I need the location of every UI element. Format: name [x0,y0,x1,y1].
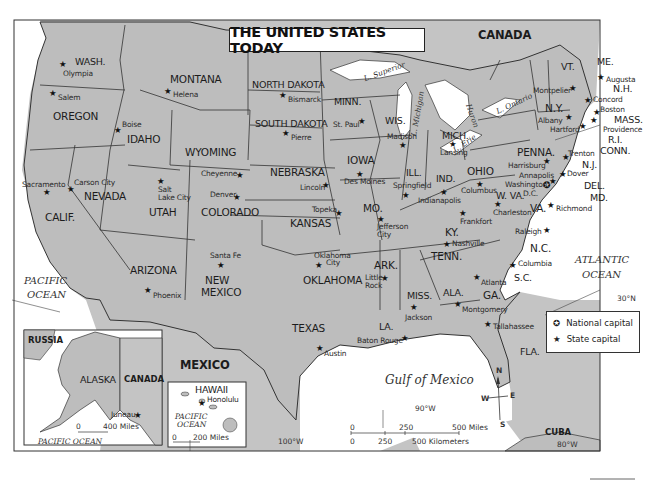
capital-label-austin: Austin [324,350,346,358]
state-label-oregon: OREGON [53,111,98,122]
state-label-md: MD. [590,193,608,203]
state-label-me: ME. [597,57,614,67]
state-capital-star: ★ [484,320,492,329]
state-capital-star: ★ [49,89,57,98]
state-label-kansas: KANSAS [290,218,331,229]
state-label-ny: N.Y. [545,103,563,114]
state-label-ind: IND. [436,174,455,184]
capital-label-boise: Boise [122,121,141,129]
compass-north: N [496,367,502,375]
state-label-calif: CALIF. [45,212,75,223]
capital-label-madison: Madison [387,133,417,141]
capital-label-columbus: Columbus [461,187,497,195]
capital-label-baton-rouge: Baton Rouge [357,337,403,345]
state-capital-star: ★ [315,261,323,270]
capital-label-salt-lake-city-2: Lake City [158,194,191,202]
state-label-ark: ARK. [374,260,398,271]
compass-south: S [500,421,505,429]
ocean-label-pacific-alaska: PACIFIC OCEAN [38,438,102,446]
state-capital-star: ★ [43,188,51,197]
country-label-canada-inset: CANADA [124,375,164,384]
country-label-mexico: MEXICO [180,360,229,372]
scale-km-250: 250 [378,438,392,446]
state-label-new-mexico-2: MEXICO [201,287,241,298]
state-label-va: VA. [530,203,546,214]
capital-label-columbia: Columbia [518,260,552,268]
ocean-label-pacific-1: PACIFIC [24,276,67,286]
state-capital-star: ★ [509,261,517,270]
state-label-vt: VT. [561,62,575,72]
state-label-minn: MINN. [334,97,361,107]
state-capital-star: ★ [543,226,551,235]
state-capital-star: ★ [402,191,410,200]
state-capital-star: ★ [565,113,573,122]
state-label-utah: UTAH [149,207,177,218]
state-capital-star: ★ [443,240,451,249]
state-capital-star: ★ [144,286,152,295]
capital-label-juneau: Juneau [111,411,135,419]
capital-label-salem: Salem [58,94,80,102]
state-capital-star: ★ [198,399,206,408]
state-capital-star: ★ [114,126,122,135]
capital-label-trenton: Trenton [568,150,595,158]
state-capital-star: ★ [597,73,605,82]
country-label-cuba: CUBA [545,428,571,437]
state-label-south-dakota: SOUTH DAKOTA [255,119,327,129]
capital-label-lansing: Lansing [440,149,468,157]
scale-km-0: 0 [350,438,355,446]
state-label-alaska: ALASKA [80,375,116,385]
state-label-ohio: OHIO [467,166,494,177]
capital-label-annapolis: Annapolis [519,172,554,180]
ocean-label-atlantic-2: OCEAN [582,270,621,280]
capital-label-richmond: Richmond [556,205,592,213]
capital-label-montpelier: Montpelier [533,87,571,95]
capital-label-dover: Dover [567,170,589,178]
capital-label-honolulu: Honolulu [207,396,239,404]
compass-east: E [510,392,515,400]
capital-label-pierre: Pierre [291,134,311,142]
national-capital-icon: ✪ [553,318,560,328]
state-label-nc: N.C. [530,243,551,254]
state-label-la: LA. [379,322,393,332]
state-label-colorado: COLORADO [201,207,259,218]
state-label-oklahoma: OKLAHOMA [303,275,362,286]
state-capital-star: ★ [282,129,290,138]
capital-label-phoenix: Phoenix [153,292,181,300]
capital-label-concord: Concord [593,96,623,104]
state-label-mass: MASS. [614,115,643,125]
capital-label-providence: Providence [603,126,642,134]
ocean-label-pacific-hawaii-2: OCEAN [177,421,206,429]
legend-label: State capital [567,334,621,344]
capital-label-jefferson-city-2: City [377,231,391,239]
capital-label-albany: Albany [538,117,563,125]
capital-label-charleston: Charleston [493,209,532,217]
state-label-wyoming: WYOMING [185,147,236,158]
state-label-north-dakota: NORTH DAKOTA [252,80,324,90]
capital-label-springfield: Springfield [393,182,431,190]
capital-label-montgomery: Montgomery [462,306,508,314]
state-label-new-mexico-1: NEW [205,275,229,286]
gridline-label-30n: 30°N [617,295,636,303]
capital-label-atlanta: Atlanta [481,279,507,287]
state-capital-star: ★ [399,141,407,150]
state-label-tenn: TENN. [431,251,462,262]
legend-item-state-capital: ★ State capital [553,334,620,344]
scale-alaska-0: 0 [76,423,81,431]
map-title: THE UNITED STATES TODAY [229,28,425,52]
capital-label-topeka: Topeka [312,206,337,214]
us-map [0,0,657,481]
capital-label-olympia: Olympia [63,70,93,78]
state-label-ga: GA. [483,290,501,301]
state-label-wis: WIS. [385,116,405,126]
state-capital-star: ★ [473,273,481,282]
state-label-montana: MONTANA [170,74,222,85]
gridline-label-90w: 90°W [415,405,436,413]
state-capital-star: ★ [584,96,592,105]
capital-label-jackson: Jackson [405,314,432,322]
state-label-arizona: ARIZONA [130,265,177,276]
capital-label-sacramento: Sacramento [22,181,65,189]
capital-label-tallahassee: Tallahassee [493,323,534,331]
state-capital-star: ★ [164,87,172,96]
capital-label-lincoln: Lincoln [300,184,325,192]
state-label-ala: ALA. [443,288,464,298]
